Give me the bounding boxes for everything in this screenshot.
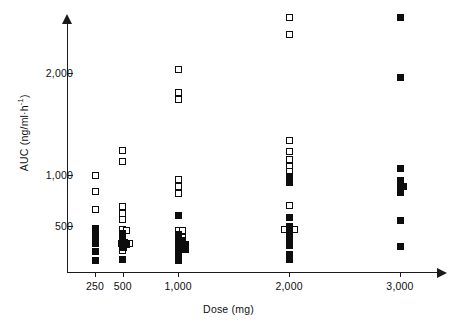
data-point-filled: [397, 243, 404, 250]
data-point-open: [286, 137, 293, 144]
x-tick-mark: [178, 272, 179, 277]
data-point-open: [175, 190, 182, 197]
data-point-filled: [120, 244, 127, 251]
data-point-open: [175, 176, 182, 183]
data-point-open: [92, 206, 99, 213]
data-point-filled: [397, 217, 404, 224]
y-axis-title: AUC (ng/ml·h-1): [16, 53, 30, 213]
data-point-open: [119, 158, 126, 165]
y-tick-500: 500: [0, 220, 73, 233]
y-axis-title-exponent: -1: [16, 98, 25, 105]
y-tick-mark: [67, 175, 73, 176]
data-point-filled: [286, 179, 293, 186]
x-axis-title: Dose (mg): [0, 303, 457, 315]
data-point-open: [119, 216, 126, 223]
data-point-filled: [92, 248, 99, 255]
y-axis-title-main: AUC (ng/ml·h: [18, 105, 30, 171]
data-point-open: [119, 147, 126, 154]
y-tick-2000: 2,000: [0, 67, 73, 80]
data-point-filled: [175, 257, 182, 264]
data-point-filled: [397, 165, 404, 172]
y-axis-title-close: ): [18, 94, 30, 98]
data-point-filled: [286, 214, 293, 221]
data-point-filled: [397, 189, 404, 196]
y-axis-line: [67, 22, 68, 273]
data-point-filled: [397, 74, 404, 81]
data-point-filled: [286, 242, 293, 249]
x-tick-mark: [400, 272, 401, 277]
data-point-filled: [119, 256, 126, 263]
data-point-filled: [92, 239, 99, 246]
x-tick-label-3000: 3,000: [370, 280, 430, 292]
data-point-open: [286, 31, 293, 38]
data-point-filled: [92, 257, 99, 264]
data-point-open: [92, 172, 99, 179]
x-tick-label-1000: 1,000: [148, 280, 208, 292]
scatter-plot-figure: 5001,0002,000 2505001,0002,0003,000 AUC …: [0, 0, 457, 325]
data-point-open: [92, 188, 99, 195]
data-point-filled: [397, 14, 404, 21]
y-tick-1000: 1,000: [0, 169, 73, 182]
data-point-open: [175, 66, 182, 73]
data-point-filled: [175, 212, 182, 219]
x-tick-mark: [289, 272, 290, 277]
x-tick-mark: [123, 272, 124, 277]
x-tick-mark: [95, 272, 96, 277]
data-point-open: [286, 156, 293, 163]
data-point-open: [286, 14, 293, 21]
y-tick-mark: [67, 73, 73, 74]
x-tick-label-2000: 2,000: [259, 280, 319, 292]
x-tick-label-500: 500: [93, 280, 153, 292]
data-point-filled: [286, 256, 293, 263]
y-axis-arrow-icon: [62, 14, 72, 24]
data-point-open: [175, 183, 182, 190]
data-point-open: [286, 148, 293, 155]
x-axis-arrow-icon: [437, 268, 447, 278]
data-point-open: [175, 96, 182, 103]
data-point-filled: [182, 246, 189, 253]
y-tick-mark: [67, 226, 73, 227]
data-point-open: [286, 202, 293, 209]
